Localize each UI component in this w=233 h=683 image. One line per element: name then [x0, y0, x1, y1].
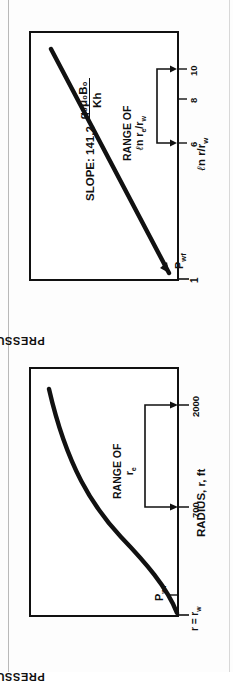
pwf-label-semilog: Pwf	[173, 253, 185, 269]
tick-label-6: 6	[188, 142, 199, 147]
slope-denominator: Kh	[90, 90, 103, 111]
slope-text: SLOPE: 141.2	[84, 126, 96, 201]
range-caption-line-1: RANGE OF	[121, 106, 133, 161]
panel-semilog: PRESSURE ℓn r/rw 1 Pwf 6 8 10 RANGE OF ℓ…	[0, 0, 233, 336]
range-arrow-2000	[170, 402, 178, 409]
x-axis-label-semilog: ℓn r/rw	[195, 11, 207, 171]
range-caption-line-2: ℓn re/rw	[133, 106, 146, 161]
tick-label-700: 700	[190, 502, 201, 518]
tick-label-10: 10	[188, 65, 199, 76]
slope-fraction: q₀μ₀B₀ Kh	[77, 78, 103, 122]
tick-label-8: 8	[188, 98, 199, 103]
slope-annotation: SLOPE: 141.2 q₀μ₀B₀ Kh	[77, 78, 103, 201]
slope-numerator: q₀μ₀B₀	[77, 78, 90, 122]
origin-tick-label-semilog: 1	[189, 277, 200, 283]
range-arrow-right	[170, 66, 177, 73]
radius-curve-svg	[17, 351, 217, 657]
range-caption-radius-line-2: re	[123, 444, 135, 499]
range-arrow-700	[170, 504, 178, 511]
range-caption-radius-line-1: RANGE OF	[111, 444, 123, 499]
tick-label-2000: 2000	[190, 396, 201, 417]
y-axis-label-radius: PRESSURE	[0, 671, 72, 683]
range-caption-radius: RANGE OF re	[111, 444, 135, 499]
range-bracket-radius	[145, 405, 175, 507]
semilog-curve-svg	[17, 15, 217, 321]
range-bracket-semilog	[157, 69, 175, 143]
ln-symbol-range: ℓ	[134, 146, 145, 151]
panel-radius: PRESSURE RADIUS, r, ft r = rw Pwf 700 20…	[0, 336, 233, 672]
ln-symbol-x-axis: ℓ	[195, 166, 207, 171]
radius-decay-curve	[49, 389, 177, 613]
range-arrow-left	[170, 140, 177, 147]
origin-tick-label-radius: r = rw	[189, 607, 200, 631]
semilog-line	[51, 49, 169, 273]
range-caption-semilog: RANGE OF ℓn re/rw	[121, 106, 146, 161]
pwf-label-radius: Pwf	[153, 585, 165, 601]
